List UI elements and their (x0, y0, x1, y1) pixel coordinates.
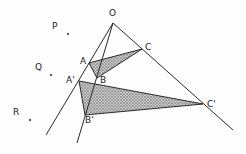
diagram-canvas: O A B C A' B' C' P Q R (0, 0, 246, 154)
label-Q: Q (35, 63, 42, 72)
point-Q-dot (50, 74, 52, 76)
label-P: P (52, 22, 57, 31)
label-B-prime: B' (85, 116, 94, 125)
label-A-prime: A' (66, 76, 75, 85)
label-C: C (145, 43, 151, 52)
point-R-dot (29, 119, 31, 121)
label-B: B (100, 76, 106, 85)
diagram-svg (0, 0, 246, 154)
point-P-dot (67, 33, 69, 35)
triangle-ABC (89, 49, 142, 78)
label-C-prime: C' (207, 100, 216, 109)
ray-OC-line (113, 23, 233, 130)
label-R: R (13, 108, 19, 117)
label-A: A (80, 57, 86, 66)
label-O: O (109, 9, 116, 18)
